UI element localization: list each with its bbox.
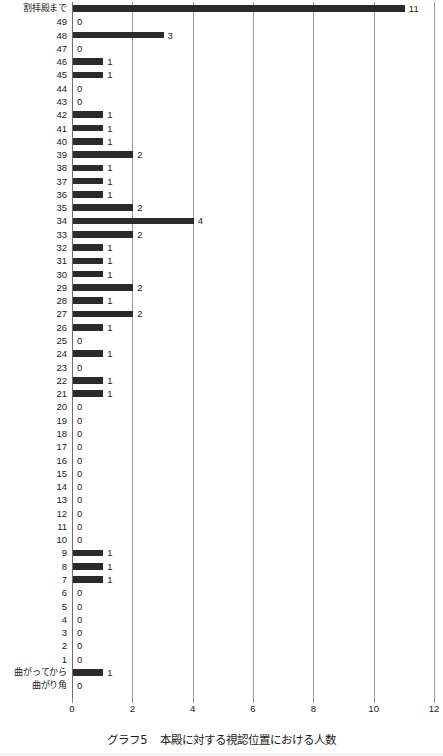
row-label-15: 15 — [56, 467, 67, 480]
bar-39 — [73, 151, 133, 158]
bar-value-44: 0 — [77, 82, 82, 95]
row-label-31: 31 — [56, 254, 67, 267]
row-label-22: 22 — [56, 374, 67, 387]
chart-row: 272 — [0, 307, 443, 320]
bar-value-14: 0 — [77, 480, 82, 493]
chart-row: 461 — [0, 55, 443, 68]
row-label-32: 32 — [56, 241, 67, 254]
bar-value-31: 1 — [107, 254, 112, 267]
bar-value-43: 0 — [77, 95, 82, 108]
tick-label-4: 4 — [178, 703, 208, 714]
bar-9 — [73, 550, 103, 557]
bar-37 — [73, 178, 103, 185]
chart-row: 381 — [0, 161, 443, 174]
tick-label-8: 8 — [298, 703, 328, 714]
bar-value-9: 1 — [107, 546, 112, 559]
row-label-41: 41 — [56, 122, 67, 135]
bar-value-33: 2 — [137, 228, 142, 241]
bar-value-16: 0 — [77, 454, 82, 467]
bar-value-29: 2 — [137, 281, 142, 294]
chart-row: 352 — [0, 201, 443, 214]
row-label-9: 9 — [62, 546, 67, 559]
bar-曲がってから — [73, 669, 103, 676]
bar-26 — [73, 324, 103, 331]
bar-value-35: 2 — [137, 201, 142, 214]
chart-row: 344 — [0, 214, 443, 227]
chart-row: 301 — [0, 268, 443, 281]
row-label-6: 6 — [62, 586, 67, 599]
bar-21 — [73, 390, 103, 397]
chart-row: 190 — [0, 414, 443, 427]
row-label-28: 28 — [56, 294, 67, 307]
chart-row: 110 — [0, 520, 443, 533]
bar-33 — [73, 231, 133, 238]
chart-row: 割拝殿まで11 — [0, 2, 443, 15]
chart-row: 30 — [0, 626, 443, 639]
bar-value-32: 1 — [107, 241, 112, 254]
row-label-29: 29 — [56, 281, 67, 294]
caption-title: 本殿に対する視認位置における人数 — [160, 733, 336, 747]
tick-label-0: 0 — [57, 703, 87, 714]
bar-31 — [73, 258, 103, 265]
chart-row: 470 — [0, 42, 443, 55]
row-label-19: 19 — [56, 414, 67, 427]
chart-row: 100 — [0, 533, 443, 546]
chart-row: 160 — [0, 454, 443, 467]
chart-row: 311 — [0, 254, 443, 267]
bar-value-36: 1 — [107, 188, 112, 201]
bar-value-42: 1 — [107, 108, 112, 121]
chart-row: 421 — [0, 108, 443, 121]
row-label-7: 7 — [62, 573, 67, 586]
chart-row: 170 — [0, 440, 443, 453]
row-label-36: 36 — [56, 188, 67, 201]
bar-38 — [73, 165, 103, 172]
bar-value-割拝殿まで: 11 — [409, 2, 419, 15]
caption-number: グラフ5 — [107, 733, 147, 747]
bar-value-12: 0 — [77, 507, 82, 520]
tick-label-6: 6 — [238, 703, 268, 714]
chart-row: 50 — [0, 600, 443, 613]
bar-value-37: 1 — [107, 175, 112, 188]
bar-value-19: 0 — [77, 414, 82, 427]
chart-row: 曲がってから1 — [0, 666, 443, 679]
bar-8 — [73, 563, 103, 570]
row-label-23: 23 — [56, 361, 67, 374]
chart-row: 392 — [0, 148, 443, 161]
bar-value-25: 0 — [77, 334, 82, 347]
bar-46 — [73, 58, 103, 65]
bar-value-21: 1 — [107, 387, 112, 400]
row-label-4: 4 — [62, 613, 67, 626]
tick-label-10: 10 — [359, 703, 389, 714]
bar-40 — [73, 138, 103, 145]
row-label-27: 27 — [56, 307, 67, 320]
bar-value-8: 1 — [107, 560, 112, 573]
chart-row: 440 — [0, 82, 443, 95]
bar-value-38: 1 — [107, 161, 112, 174]
bar-22 — [73, 377, 103, 384]
bar-29 — [73, 284, 133, 291]
row-label-46: 46 — [56, 55, 67, 68]
bar-value-5: 0 — [77, 600, 82, 613]
bar-24 — [73, 350, 103, 357]
bar-value-28: 1 — [107, 294, 112, 307]
chart-row: 211 — [0, 387, 443, 400]
bar-value-39: 2 — [137, 148, 142, 161]
bar-7 — [73, 576, 103, 583]
row-label-14: 14 — [56, 480, 67, 493]
row-label-16: 16 — [56, 454, 67, 467]
bar-48 — [73, 32, 164, 39]
bar-35 — [73, 204, 133, 211]
bar-value-24: 1 — [107, 347, 112, 360]
bar-value-4: 0 — [77, 613, 82, 626]
row-label-3: 3 — [62, 626, 67, 639]
row-label-26: 26 — [56, 321, 67, 334]
row-label-12: 12 — [56, 507, 67, 520]
row-label-18: 18 — [56, 427, 67, 440]
chart-row: 292 — [0, 281, 443, 294]
row-label-44: 44 — [56, 82, 67, 95]
row-label-42: 42 — [56, 108, 67, 121]
row-label-47: 47 — [56, 42, 67, 55]
bar-value-30: 1 — [107, 268, 112, 281]
figure-caption: グラフ5本殿に対する視認位置における人数 — [0, 731, 443, 747]
chart-row: 40 — [0, 613, 443, 626]
